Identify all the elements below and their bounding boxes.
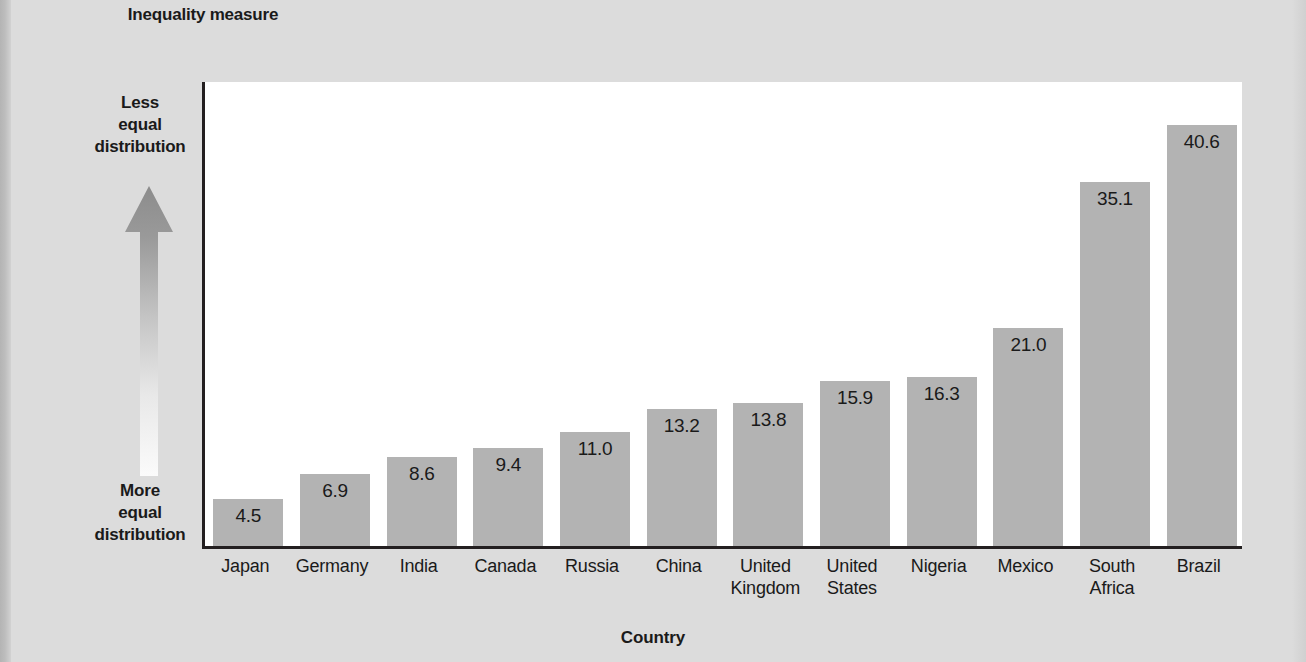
bar-united-states[interactable]: 15.9 [820, 381, 890, 546]
page-left-edge-shadow [0, 0, 11, 662]
more-equal-label: More equal distribution [80, 480, 200, 546]
bar-group[interactable]: 4.5 [213, 82, 283, 546]
bar-value-label: 9.4 [473, 454, 543, 476]
more-equal-line3: distribution [80, 524, 200, 546]
bar-value-label: 4.5 [213, 505, 283, 527]
x-tick-label-line: South [1069, 556, 1156, 578]
bar-group[interactable]: 15.9 [820, 82, 890, 546]
bar-group[interactable]: 16.3 [907, 82, 977, 546]
bar-value-label: 13.8 [733, 409, 803, 431]
bar-group[interactable]: 13.2 [647, 82, 717, 546]
bar-value-label: 8.6 [387, 463, 457, 485]
bar-germany[interactable]: 6.9 [300, 474, 370, 546]
bar-united-kingdom[interactable]: 13.8 [733, 403, 803, 546]
bar-group[interactable]: 6.9 [300, 82, 370, 546]
bar-canada[interactable]: 9.4 [473, 448, 543, 546]
more-equal-line2: equal [80, 502, 200, 524]
bar-value-label: 35.1 [1080, 188, 1150, 210]
x-tick-label-brazil: Brazil [1155, 556, 1242, 578]
bar-value-label: 11.0 [560, 438, 630, 460]
x-tick-label-line: United [809, 556, 896, 578]
x-tick-label-india: India [375, 556, 462, 578]
x-tick-label-united-kingdom: UnitedKingdom [722, 556, 809, 600]
bar-group[interactable]: 9.4 [473, 82, 543, 546]
x-axis-title: Country [0, 628, 1306, 648]
x-tick-label-china: China [635, 556, 722, 578]
x-tick-label-line: India [375, 556, 462, 578]
bar-india[interactable]: 8.6 [387, 457, 457, 546]
y-axis-title: Inequality measure [118, 4, 288, 26]
x-tick-label-line: Kingdom [722, 578, 809, 600]
x-tick-label-canada: Canada [462, 556, 549, 578]
bar-group[interactable]: 13.8 [733, 82, 803, 546]
bar-group[interactable]: 21.0 [993, 82, 1063, 546]
y-axis-title-line1: Inequality measure [118, 4, 288, 26]
bar-value-label: 15.9 [820, 387, 890, 409]
x-tick-label-united-states: UnitedStates [809, 556, 896, 600]
bar-brazil[interactable]: 40.6 [1167, 125, 1237, 546]
bar-value-label: 21.0 [993, 334, 1063, 356]
bar-value-label: 40.6 [1167, 131, 1237, 153]
less-equal-line2: equal [80, 114, 200, 136]
x-tick-label-line: Canada [462, 556, 549, 578]
bar-south-africa[interactable]: 35.1 [1080, 182, 1150, 546]
bar-mexico[interactable]: 21.0 [993, 328, 1063, 546]
x-tick-label-line: Nigeria [895, 556, 982, 578]
chart-page: Inequality measure Less equal distributi… [0, 0, 1306, 662]
x-tick-label-nigeria: Nigeria [895, 556, 982, 578]
up-arrow-gradient-icon [125, 186, 173, 476]
bar-value-label: 16.3 [907, 383, 977, 405]
x-tick-label-line: Mexico [982, 556, 1069, 578]
less-equal-label: Less equal distribution [80, 92, 200, 158]
bar-value-label: 13.2 [647, 415, 717, 437]
x-tick-label-line: Germany [289, 556, 376, 578]
bar-group[interactable]: 8.6 [387, 82, 457, 546]
less-equal-line3: distribution [80, 136, 200, 158]
x-tick-label-line: Africa [1069, 578, 1156, 600]
x-axis-tick-labels: JapanGermanyIndiaCanadaRussiaChinaUnited… [202, 556, 1242, 612]
bars-layer: 4.56.98.69.411.013.213.815.916.321.035.1… [205, 82, 1242, 546]
bar-russia[interactable]: 11.0 [560, 432, 630, 546]
x-tick-label-germany: Germany [289, 556, 376, 578]
x-tick-label-japan: Japan [202, 556, 289, 578]
bar-china[interactable]: 13.2 [647, 409, 717, 546]
more-equal-line1: More [80, 480, 200, 502]
less-equal-line1: Less [80, 92, 200, 114]
x-tick-label-mexico: Mexico [982, 556, 1069, 578]
bar-group[interactable]: 40.6 [1167, 82, 1237, 546]
bar-nigeria[interactable]: 16.3 [907, 377, 977, 546]
x-tick-label-line: Japan [202, 556, 289, 578]
plot-area: 4.56.98.69.411.013.213.815.916.321.035.1… [202, 82, 1242, 549]
bar-group[interactable]: 35.1 [1080, 82, 1150, 546]
bar-japan[interactable]: 4.5 [213, 499, 283, 546]
x-tick-label-south-africa: SouthAfrica [1069, 556, 1156, 600]
page-right-edge-shadow [1292, 0, 1306, 662]
x-tick-label-russia: Russia [549, 556, 636, 578]
bar-value-label: 6.9 [300, 480, 370, 502]
x-tick-label-line: States [809, 578, 896, 600]
x-tick-label-line: Russia [549, 556, 636, 578]
x-tick-label-line: Brazil [1155, 556, 1242, 578]
less-equal-annotation: Less equal distribution [80, 92, 200, 164]
x-tick-label-line: China [635, 556, 722, 578]
x-tick-label-line: United [722, 556, 809, 578]
bar-group[interactable]: 11.0 [560, 82, 630, 546]
